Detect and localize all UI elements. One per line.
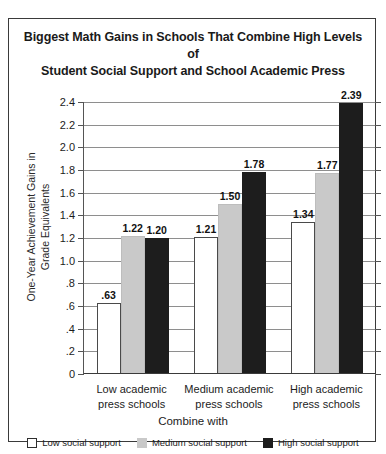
legend-swatch-med — [137, 438, 147, 448]
y-axis-tick-right — [375, 215, 381, 216]
bar — [339, 103, 363, 374]
y-axis-tick — [78, 193, 84, 194]
x-axis-label: Combine with — [9, 415, 377, 427]
y-axis-label: One-Year Achievement Gains in Grade Equi… — [24, 77, 52, 377]
y-axis-tick-label: .2 — [66, 345, 75, 357]
bar-value-label: 1.78 — [244, 158, 264, 170]
category-label: High academicpress schools — [290, 382, 363, 411]
y-axis-tick-label: 1.2 — [60, 232, 75, 244]
y-axis-tick — [78, 238, 84, 239]
y-axis-tick-label: 1.0 — [60, 255, 75, 267]
gridline — [84, 102, 376, 103]
y-axis-label-container: One-Year Achievement Gains in Grade Equi… — [21, 79, 55, 379]
y-axis-tick-label: 2.0 — [60, 141, 75, 153]
y-axis-tick — [78, 170, 84, 171]
legend-label: Low social support — [42, 437, 121, 448]
y-axis-label-line-2: Grade Equivalents — [38, 77, 52, 377]
y-axis-tick-right — [375, 306, 381, 307]
y-axis-label-line-1: One-Year Achievement Gains in — [25, 152, 37, 301]
y-axis-tick — [78, 351, 84, 352]
bar-value-label: 1.20 — [146, 224, 166, 236]
y-axis-tick-label: .6 — [66, 300, 75, 312]
y-axis-tick-right — [375, 147, 381, 148]
chart-legend: Low social supportMedium social supportH… — [9, 437, 377, 448]
bar-value-label: 1.22 — [122, 222, 142, 234]
y-axis-tick — [78, 261, 84, 262]
y-axis-tick-label: .4 — [66, 323, 75, 335]
category-label-line-2: press schools — [290, 397, 363, 412]
chart-figure: Biggest Math Gains in Schools That Combi… — [8, 18, 376, 442]
bar — [315, 173, 339, 374]
bar-value-label: 1.21 — [196, 223, 216, 235]
bar — [218, 204, 242, 374]
y-axis-tick — [78, 329, 84, 330]
legend-item: Low social support — [27, 437, 121, 448]
y-axis-tick — [78, 306, 84, 307]
y-axis-tick — [78, 374, 84, 375]
gridline — [84, 147, 376, 148]
category-label-line-2: press schools — [96, 397, 166, 412]
y-axis-tick-label: .8 — [66, 277, 75, 289]
y-axis-tick-label: 0 — [69, 368, 75, 380]
category-label: Low academicpress schools — [96, 382, 166, 411]
bar — [121, 236, 145, 374]
gridline — [84, 125, 376, 126]
category-label-line-1: Medium academic — [184, 383, 273, 395]
legend-item: High social support — [263, 437, 359, 448]
bar-value-label: 1.34 — [293, 208, 313, 220]
bar — [291, 222, 315, 374]
bar — [194, 237, 218, 374]
y-axis-tick-label: 1.6 — [60, 187, 75, 199]
bar — [97, 303, 121, 374]
y-axis-tick-right — [375, 261, 381, 262]
legend-swatch-low — [27, 438, 37, 448]
y-axis-tick — [78, 102, 84, 103]
y-axis-tick-label: 1.8 — [60, 164, 75, 176]
legend-label: Medium social support — [152, 437, 247, 448]
y-axis-tick — [78, 147, 84, 148]
y-axis-tick-label: 2.2 — [60, 119, 75, 131]
category-label-line-1: Low academic — [96, 383, 166, 395]
y-axis-tick — [78, 125, 84, 126]
chart-title-line-2: Student Social Support and School Academ… — [21, 63, 365, 80]
bar-value-label: 1.77 — [317, 159, 337, 171]
y-axis-tick-right — [375, 374, 381, 375]
bar-value-label: 2.39 — [341, 89, 361, 101]
legend-label: High social support — [278, 437, 359, 448]
chart-title: Biggest Math Gains in Schools That Combi… — [21, 29, 365, 80]
x-axis-baseline — [84, 373, 376, 374]
bar — [242, 172, 266, 374]
bar — [145, 238, 169, 374]
y-axis-tick-right — [375, 329, 381, 330]
y-axis-tick-right — [375, 193, 381, 194]
y-axis-tick-label: 2.4 — [60, 96, 75, 108]
plot-area: 0.2.4.6.81.01.21.41.61.82.02.22.4 .631.2… — [83, 102, 375, 374]
y-axis-tick-right — [375, 351, 381, 352]
legend-item: Medium social support — [137, 437, 247, 448]
chart-title-line-1: Biggest Math Gains in Schools That Combi… — [24, 30, 362, 61]
category-label-line-2: press schools — [184, 397, 273, 412]
legend-swatch-high — [263, 438, 273, 448]
y-axis-tick-right — [375, 238, 381, 239]
bar-value-label: 1.50 — [220, 190, 240, 202]
y-axis-tick-right — [375, 170, 381, 171]
bar-value-label: .63 — [101, 289, 116, 301]
y-axis-tick-label: 1.4 — [60, 209, 75, 221]
category-label-line-1: High academic — [290, 383, 363, 395]
y-axis-tick-right — [375, 125, 381, 126]
y-axis-tick — [78, 215, 84, 216]
category-label: Medium academicpress schools — [184, 382, 273, 411]
y-axis-tick-right — [375, 102, 381, 103]
y-axis-tick-right — [375, 283, 381, 284]
y-axis-tick — [78, 283, 84, 284]
